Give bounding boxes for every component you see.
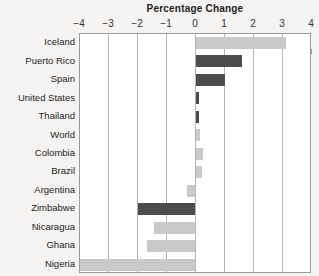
y-category-label: Nicaragua (0, 221, 75, 232)
y-category-label: Ghana (0, 239, 75, 250)
x-tick-label: −3 (96, 18, 120, 29)
x-tick-mark (311, 49, 312, 54)
y-category-label: Iceland (0, 36, 75, 47)
bar (138, 203, 196, 215)
y-category-label: Zimbabwe (0, 202, 75, 213)
bar (196, 92, 199, 104)
x-tick-label: −1 (154, 18, 178, 29)
y-axis-category-labels: IcelandPuerto RicoSpainUnited StatesThai… (0, 33, 75, 273)
x-axis-tick-labels: −4−3−2−101234 (0, 18, 319, 31)
bar (196, 37, 286, 49)
bar (196, 111, 199, 123)
y-category-label: Puerto Rico (0, 55, 75, 66)
x-tick-label: 3 (270, 18, 294, 29)
bar (79, 259, 196, 271)
zero-line (195, 34, 196, 272)
x-tick-label: −2 (125, 18, 149, 29)
bar (196, 166, 202, 178)
y-category-label: Spain (0, 73, 75, 84)
bar (154, 222, 196, 234)
chart-figure: Percentage Change −4−3−2−101234 IcelandP… (0, 0, 319, 276)
y-category-label: Colombia (0, 147, 75, 158)
x-tick-label: 4 (299, 18, 319, 29)
bar (196, 129, 200, 141)
y-category-label: Nigeria (0, 258, 75, 269)
y-category-label: World (0, 129, 75, 140)
bar (196, 55, 242, 67)
plot-area (79, 33, 311, 273)
y-category-label: Argentina (0, 184, 75, 195)
x-tick-label: 2 (241, 18, 265, 29)
y-category-label: Brazil (0, 165, 75, 176)
bar (196, 74, 225, 86)
x-tick-label: 1 (212, 18, 236, 29)
x-tick-label: 0 (183, 18, 207, 29)
x-tick-label: −4 (67, 18, 91, 29)
y-category-label: United States (0, 92, 75, 103)
chart-title: Percentage Change (79, 3, 311, 14)
bar (147, 240, 196, 252)
bar (196, 148, 203, 160)
y-category-label: Thailand (0, 110, 75, 121)
